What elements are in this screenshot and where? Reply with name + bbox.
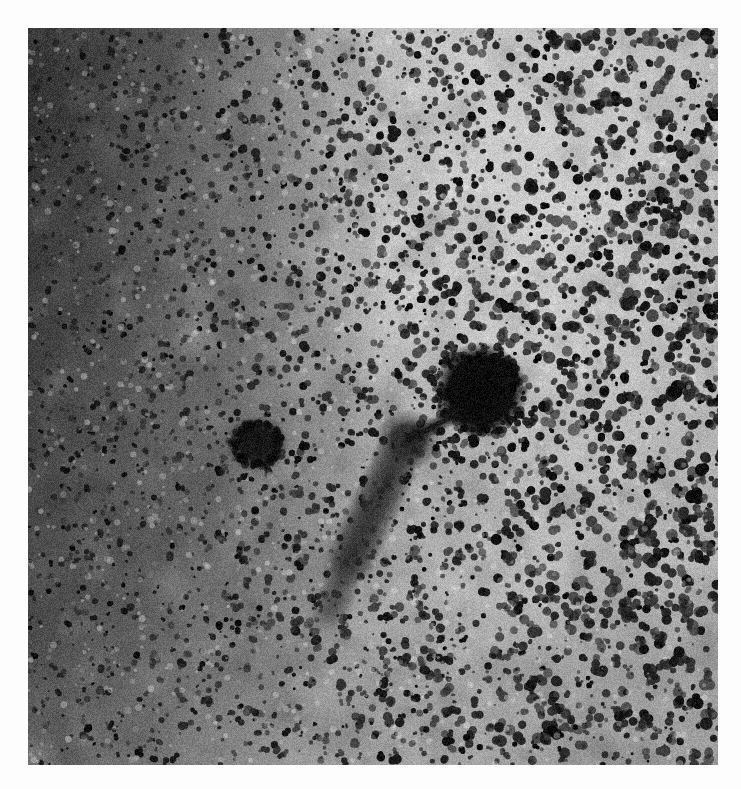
micrograph-page (0, 0, 741, 789)
micrograph-canvas (28, 28, 718, 765)
electron-micrograph-image (28, 28, 718, 765)
